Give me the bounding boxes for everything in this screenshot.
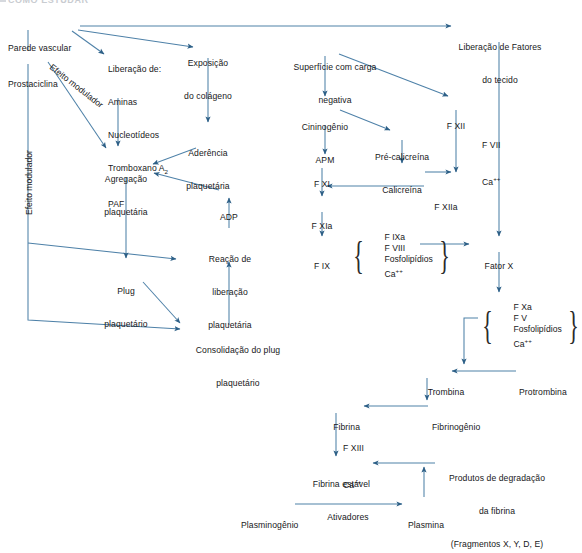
prothrombinase-ca-label: Ca xyxy=(514,339,525,349)
f-vii-ca-superscript: ++ xyxy=(493,175,500,182)
node-calicreina: Calicreína xyxy=(374,163,430,218)
tenase-ca-label: Ca xyxy=(385,269,396,279)
tromboxano-subscript: 2 xyxy=(165,168,169,175)
left-brace-icon: { xyxy=(353,236,364,276)
brace-group-tenase: { F IXa F VIII Fosfolipídios Ca++ } xyxy=(349,221,454,291)
node-plasmina: Plasmina xyxy=(408,498,444,553)
node-consolidacao-plug: Consolidação do plug plaquetário xyxy=(183,323,293,411)
header-bullet-icon xyxy=(0,0,6,2)
node-fator-x: Fator X xyxy=(474,239,524,294)
node-fibrinogenio: Fibrinogênio xyxy=(432,400,480,455)
left-brace-icon: { xyxy=(482,306,493,346)
node-liberacao-fatores-tecido: Liberação de Fatores do tecido xyxy=(448,20,552,108)
tenase-items: F IXa F VIII Fosfolipídios Ca++ xyxy=(368,221,435,291)
right-brace-icon: } xyxy=(439,236,450,276)
f-vii-ca-label: Ca xyxy=(482,177,493,187)
node-protrombina: Protrombina xyxy=(519,365,567,420)
node-agregacao-plaquetaria: Agregação plaquetária xyxy=(94,152,158,240)
header-title-text: COMO ESTUDAR xyxy=(8,0,88,5)
label-ativadores: Ativadores xyxy=(308,490,388,545)
page-header-partial: COMO ESTUDAR xyxy=(0,0,558,10)
prothrombinase-items: F Xa F V Fosfolipídios Ca++ xyxy=(497,291,564,361)
label-efeito-modulador-vertical: Efeito modulador xyxy=(24,150,34,215)
node-exposicao-colageno: Exposição do colágeno xyxy=(175,36,241,124)
node-plasminogenio: Plasminogênio xyxy=(241,498,299,553)
node-produtos-degradacao-fibrina: Produtos de degradação da fibrina (Fragm… xyxy=(437,451,557,553)
node-plug-plaquetario: Plug plaquetário xyxy=(94,264,158,352)
tenase-ca-superscript: ++ xyxy=(396,267,403,274)
node-f-ix: F IX xyxy=(303,239,341,294)
node-f-vii-ca: F VII Ca++ xyxy=(482,118,501,210)
right-brace-icon: } xyxy=(568,306,579,346)
prothrombinase-ca-superscript: ++ xyxy=(525,337,532,344)
brace-group-prothrombinase: { F Xa F V Fosfolipídios Ca++ } xyxy=(478,291,582,361)
